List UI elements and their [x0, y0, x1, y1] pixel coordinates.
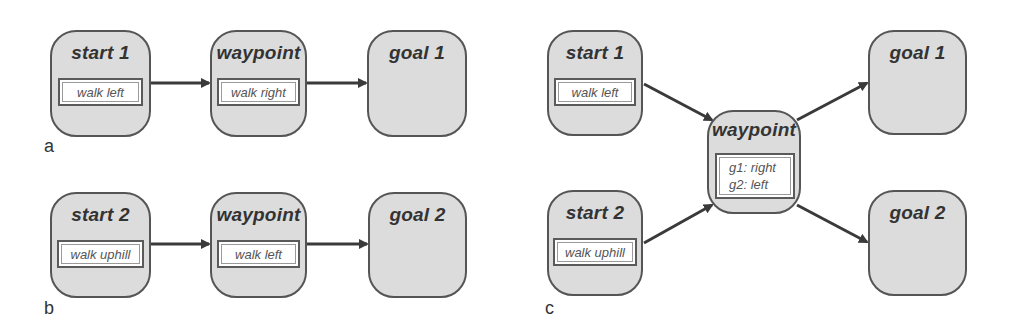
action-label-g2: g2: left [729, 176, 768, 193]
panel-c-start2-node: start 2 walk uphill [547, 190, 643, 296]
action-box: walk uphill [553, 238, 637, 266]
panel-a-goal-node: goal 1 [367, 30, 467, 137]
action-label: walk left [77, 84, 124, 101]
panel-c-waypoint-node: waypoint g1: right g2: left [707, 110, 801, 214]
edge-c-start2-to-waypoint [644, 205, 712, 243]
node-title: goal 2 [370, 204, 465, 226]
edge-c-waypoint-to-goal2 [797, 205, 867, 242]
action-label: walk uphill [71, 246, 131, 263]
node-title: goal 1 [369, 42, 465, 64]
node-title: waypoint [709, 119, 799, 141]
panel-c-start1-node: start 1 walk left [547, 30, 643, 136]
action-box: walk left [58, 78, 143, 106]
action-box: walk left [554, 78, 636, 106]
action-label: walk left [572, 84, 619, 101]
node-title: start 2 [52, 204, 149, 226]
panel-a-start-node: start 1 walk left [50, 30, 151, 137]
action-box: g1: right g2: left [715, 153, 795, 199]
edge-c-start1-to-waypoint [644, 84, 712, 120]
action-label: walk uphill [565, 244, 625, 261]
panel-label-b: b [44, 298, 54, 319]
action-label: walk left [235, 246, 282, 263]
panel-c-goal1-node: goal 1 [868, 30, 967, 135]
node-title: start 1 [52, 42, 149, 64]
action-box: walk left [217, 240, 300, 268]
panel-label-a: a [44, 136, 54, 157]
edge-c-waypoint-to-goal1 [797, 83, 867, 120]
panel-label-c: c [545, 298, 554, 319]
node-title: start 1 [549, 42, 641, 64]
action-label-g1: g1: right [729, 159, 776, 176]
node-title: waypoint [212, 42, 305, 64]
panel-b-waypoint-node: waypoint walk left [210, 192, 307, 298]
node-title: waypoint [212, 204, 305, 226]
node-title: start 2 [549, 202, 641, 224]
node-title: goal 2 [870, 202, 965, 224]
panel-a-waypoint-node: waypoint walk right [210, 30, 307, 137]
edges-layer [0, 0, 1017, 326]
panel-b-goal-node: goal 2 [368, 192, 467, 298]
action-box: walk right [217, 78, 300, 106]
action-label: walk right [231, 84, 286, 101]
panel-c-goal2-node: goal 2 [868, 190, 967, 296]
panel-b-start-node: start 2 walk uphill [50, 192, 151, 298]
node-title: goal 1 [870, 42, 965, 64]
action-box: walk uphill [57, 240, 144, 268]
